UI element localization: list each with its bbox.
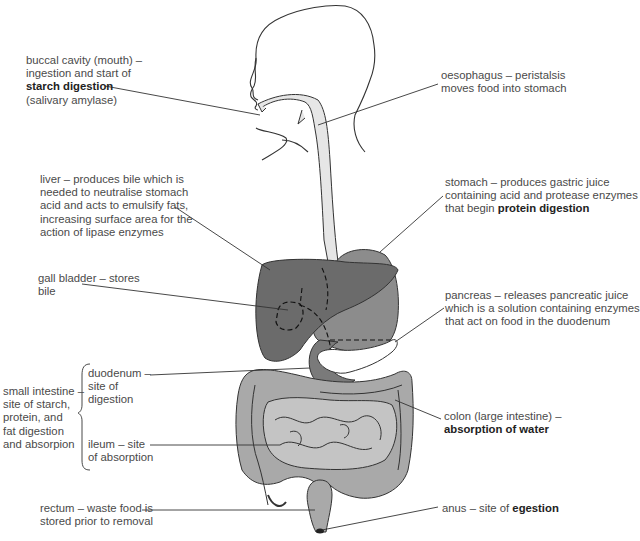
label-anus: anus – site of egestion (442, 502, 559, 515)
label-ileum: ileum – site of absorption (88, 438, 153, 464)
rectum-shape (307, 480, 332, 532)
leader-stomach (380, 196, 443, 252)
label-colon: colon (large intestine) – absorption of … (444, 410, 561, 436)
small-intestine-shape (263, 398, 397, 470)
label-small-intestine: small intestine – site of starch, protei… (3, 385, 84, 451)
label-liver: liver – produces bile which is needed to… (40, 173, 193, 239)
label-oesophagus: oesophagus – peristalsis moves food into… (441, 69, 567, 95)
appendix-shape (268, 495, 286, 506)
anus-shape (316, 529, 324, 534)
label-mouth: buccal cavity (mouth) – ingestion and st… (26, 54, 142, 107)
label-duodenum: duodenum – site of digestion (88, 367, 151, 407)
leader-anus (322, 507, 438, 530)
head-outline (250, 6, 374, 161)
label-gall-bladder: gall bladder – stores bile (38, 272, 140, 298)
label-rectum: rectum – waste food is stored prior to r… (40, 502, 153, 528)
leader-pancreas (395, 308, 444, 342)
leader-oesophagus (318, 84, 438, 125)
label-stomach: stomach – produces gastric juice contain… (445, 176, 638, 216)
face-profile (251, 58, 258, 110)
label-pancreas: pancreas – releases pancreatic juice whi… (445, 289, 640, 329)
oesophagus-tube (258, 94, 338, 262)
throat-notch (298, 110, 305, 124)
